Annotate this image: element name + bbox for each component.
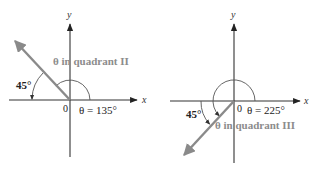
angle-diagrams: x y 0 45° θ in quadrant II θ = 135° x y … [0, 0, 317, 170]
x-axis-label: x [303, 95, 309, 106]
theta-value-label: θ = 135° [79, 104, 117, 116]
ray-label: θ in quadrant II [53, 55, 129, 67]
y-axis-label: y [230, 9, 236, 20]
terminal-ray [15, 41, 70, 100]
x-axis-label: x [141, 94, 147, 105]
ray-label: θ in quadrant III [215, 119, 295, 131]
reference-angle-label: 45° [186, 108, 201, 120]
y-axis-label: y [66, 9, 72, 20]
theta-value-label: θ = 225° [247, 104, 285, 116]
reference-angle-arc [32, 73, 43, 99]
origin-label: 0 [237, 103, 242, 114]
figure-quadrant-iii: x y 0 45° θ in quadrant III θ = 225° [170, 9, 309, 163]
reference-angle-label: 45° [16, 79, 31, 91]
reference-angle-arc [201, 101, 210, 124]
figure-quadrant-ii: x y 0 45° θ in quadrant II θ = 135° [9, 9, 147, 157]
origin-label: 0 [63, 103, 68, 114]
